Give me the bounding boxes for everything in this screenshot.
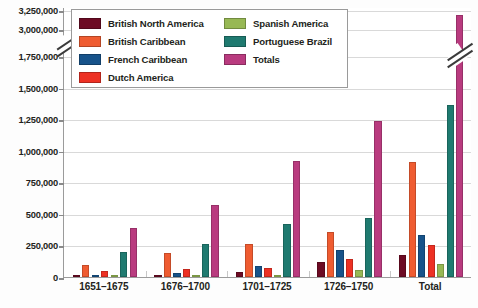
- bar: [245, 244, 252, 277]
- y-axis-tick-label: 1,000,000: [18, 147, 58, 157]
- bar: [346, 259, 353, 277]
- legend-swatch-icon: [79, 18, 101, 29]
- y-axis-tick-label: 0: [53, 273, 58, 283]
- y-axis-tick-label: 750,000: [26, 178, 58, 188]
- x-axis-tick-label: Total: [389, 281, 471, 292]
- bar: [327, 232, 334, 277]
- legend-column-left: British North AmericaBritish CaribbeanFr…: [79, 15, 204, 87]
- bar: [255, 266, 262, 277]
- legend-column-right: Spanish AmericaPortuguese BrazilTotals: [224, 15, 332, 69]
- legend-item-label: Spanish America: [253, 18, 328, 29]
- y-axis-tick-label: 500,000: [26, 210, 58, 220]
- bar: [274, 275, 281, 277]
- legend-item[interactable]: Spanish America: [224, 15, 332, 32]
- legend-item-label: British Caribbean: [108, 36, 185, 47]
- legend-item[interactable]: Totals: [224, 51, 332, 68]
- y-axis-tick-mark: [59, 278, 64, 280]
- bar: [293, 161, 300, 277]
- bar: [409, 162, 416, 277]
- bar: [336, 250, 343, 277]
- bar: [120, 252, 127, 277]
- bar: [264, 268, 271, 277]
- x-axis-group-separator: [390, 271, 391, 277]
- legend: British North AmericaBritish CaribbeanFr…: [71, 9, 348, 88]
- x-axis: 1651–16751676–17001701–17251726–1750Tota…: [63, 281, 471, 306]
- bar: [82, 265, 89, 277]
- bar: [202, 244, 209, 277]
- bar: [283, 224, 290, 277]
- bar: [101, 271, 108, 277]
- legend-item[interactable]: Dutch America: [79, 69, 204, 86]
- bar: [192, 275, 199, 277]
- bar: [365, 218, 372, 277]
- bar: [374, 121, 381, 277]
- legend-swatch-icon: [79, 54, 101, 65]
- bar: [130, 228, 137, 277]
- bar: [447, 105, 454, 277]
- bar: [355, 270, 362, 277]
- bar: [456, 15, 463, 277]
- legend-item-label: French Caribbean: [108, 54, 187, 65]
- bar: [111, 275, 118, 277]
- chart-container: 0250,000500,000750,0001,000,0001,250,000…: [0, 0, 478, 308]
- legend-item-label: Dutch America: [108, 72, 173, 83]
- legend-item[interactable]: Portuguese Brazil: [224, 33, 332, 50]
- y-axis-tick-label: 1,500,000: [18, 84, 58, 94]
- legend-item-label: British North America: [108, 18, 204, 29]
- legend-swatch-icon: [224, 54, 246, 65]
- bar: [399, 255, 406, 277]
- x-axis-tick-label: 1676–1700: [145, 281, 227, 292]
- bar: [236, 272, 243, 277]
- bar: [183, 269, 190, 277]
- bar: [92, 275, 99, 277]
- x-axis-tick-label: 1726–1750: [308, 281, 390, 292]
- y-axis-tick-label: 1,750,000: [18, 52, 58, 62]
- legend-item[interactable]: British North America: [79, 15, 204, 32]
- legend-item[interactable]: British Caribbean: [79, 33, 204, 50]
- y-axis: 0250,000500,000750,0001,000,0001,250,000…: [0, 0, 58, 308]
- bar: [418, 235, 425, 277]
- bar: [164, 253, 171, 277]
- y-axis-tick-label: 3,000,000: [18, 25, 58, 35]
- bar: [211, 205, 218, 277]
- legend-item[interactable]: French Caribbean: [79, 51, 204, 68]
- x-axis-group-separator: [309, 271, 310, 277]
- bar: [73, 275, 80, 277]
- x-axis-tick-label: 1651–1675: [63, 281, 145, 292]
- gridline: [64, 89, 471, 90]
- legend-item-label: Totals: [253, 54, 280, 65]
- legend-item-label: Portuguese Brazil: [253, 36, 332, 47]
- y-axis-tick-label: 3,250,000: [18, 6, 58, 16]
- x-axis-tick-label: 1701–1725: [226, 281, 308, 292]
- bar: [173, 273, 180, 277]
- legend-swatch-icon: [79, 72, 101, 83]
- legend-swatch-icon: [224, 36, 246, 47]
- bar: [317, 262, 324, 277]
- x-axis-group-separator: [227, 271, 228, 277]
- y-axis-tick-label: 1,250,000: [18, 115, 58, 125]
- bar: [437, 264, 444, 277]
- legend-swatch-icon: [79, 36, 101, 47]
- y-axis-tick-label: 250,000: [26, 241, 58, 251]
- bar: [154, 275, 161, 277]
- x-axis-group-separator: [146, 271, 147, 277]
- gridline: [64, 120, 471, 121]
- bar: [428, 245, 435, 277]
- gridline: [64, 152, 471, 153]
- legend-swatch-icon: [224, 18, 246, 29]
